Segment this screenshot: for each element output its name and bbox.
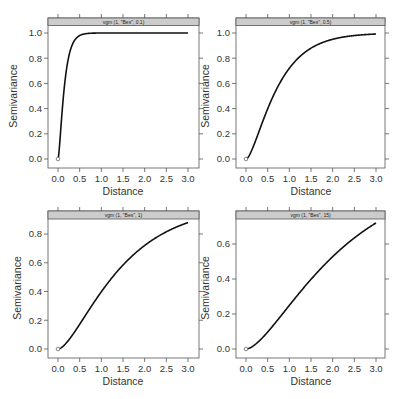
x-tick-label: 0.0: [51, 363, 64, 374]
y-tick-label: 1.0: [29, 27, 42, 38]
y-tick-label: 0.4: [217, 273, 230, 284]
x-tick-label: 0.5: [73, 363, 86, 374]
panel-4-xlabel: Distance: [291, 375, 332, 387]
x-tick-label: 2.0: [138, 363, 151, 374]
x-tick-label: 2.0: [138, 173, 151, 184]
x-tick-label: 2.0: [326, 363, 339, 374]
panel-2: vgm (1, "Bes", 0.5) 0.00.51.01.52.02.53.…: [199, 14, 389, 197]
x-tick-label: 0.0: [239, 363, 252, 374]
panel-1-ylabel: Semivariance: [7, 64, 19, 128]
panel-2-frame: [236, 18, 385, 168]
x-tick-label: 3.0: [369, 363, 382, 374]
x-tick-label: 2.5: [160, 363, 173, 374]
panel-2-origin-point: [244, 157, 248, 161]
y-tick-label: 0.4: [217, 103, 230, 114]
x-tick-label: 0.0: [239, 173, 252, 184]
y-tick-label: 0.6: [29, 78, 42, 89]
panel-3-frame: [48, 211, 199, 358]
panel-1-origin-point: [56, 157, 60, 161]
y-tick-label: 0.8: [29, 53, 42, 64]
y-tick-label: 0.0: [217, 153, 230, 164]
variogram-trellis-chart: vgm (1, "Bes", 0.1) 0.00.51.01.52.02.53.…: [0, 0, 399, 399]
panel-4-ylabel: Semivariance: [199, 256, 211, 320]
y-tick-label: 0.2: [29, 128, 42, 139]
x-tick-label: 0.5: [73, 173, 86, 184]
x-tick-label: 1.5: [304, 173, 317, 184]
panel-1-xlabel: Distance: [103, 185, 144, 197]
x-tick-label: 3.0: [181, 363, 194, 374]
panel-3-origin-point: [56, 347, 60, 351]
y-tick-label: 0.2: [217, 308, 230, 319]
panel-3-xlabel: Distance: [103, 375, 144, 387]
y-tick-label: 0.6: [217, 78, 230, 89]
panel-2-ylabel: Semivariance: [199, 64, 211, 128]
panel-1: vgm (1, "Bes", 0.1) 0.00.51.01.52.02.53.…: [7, 14, 203, 197]
y-tick-label: 0.8: [217, 53, 230, 64]
panel-3-ylabel: Semivariance: [11, 256, 23, 320]
x-tick-label: 2.5: [160, 173, 173, 184]
panel-2-xlabel: Distance: [291, 185, 332, 197]
panel-4-origin-point: [244, 347, 248, 351]
x-tick-label: 1.0: [95, 173, 108, 184]
x-tick-label: 0.5: [261, 363, 274, 374]
y-tick-label: 0.2: [29, 315, 42, 326]
x-tick-label: 2.5: [348, 173, 361, 184]
y-tick-label: 0.8: [29, 228, 42, 239]
y-tick-label: 0.4: [29, 103, 42, 114]
panel-4: vgm (1, "Bes", 15) 0.00.51.01.52.02.53.0…: [199, 207, 389, 387]
y-tick-label: 0.4: [29, 286, 42, 297]
x-tick-label: 1.5: [116, 173, 129, 184]
panel-4-frame: [236, 211, 385, 358]
panel-3-strip-label: vgm (1, "Bes", 1): [105, 212, 143, 218]
y-tick-label: 1.0: [217, 27, 230, 38]
x-tick-label: 1.5: [116, 363, 129, 374]
x-tick-label: 3.0: [181, 173, 194, 184]
panel-4-strip-label: vgm (1, "Bes", 15): [290, 212, 331, 218]
y-tick-label: 0.2: [217, 128, 230, 139]
x-tick-label: 3.0: [369, 173, 382, 184]
panel-1-strip-label: vgm (1, "Bes", 0.1): [103, 19, 145, 25]
x-tick-label: 1.0: [95, 363, 108, 374]
y-tick-label: 0.6: [217, 238, 230, 249]
y-tick-label: 0.0: [217, 343, 230, 354]
y-tick-label: 0.0: [29, 153, 42, 164]
panel-1-frame: [48, 18, 199, 168]
x-tick-label: 1.0: [283, 173, 296, 184]
x-tick-label: 2.0: [326, 173, 339, 184]
x-tick-label: 0.0: [51, 173, 64, 184]
panel-3: vgm (1, "Bes", 1) 0.00.51.01.52.02.53.00…: [11, 207, 203, 387]
y-tick-label: 0.6: [29, 257, 42, 268]
panel-2-strip-label: vgm (1, "Bes", 0.5): [290, 19, 332, 25]
x-tick-label: 1.0: [283, 363, 296, 374]
x-tick-label: 0.5: [261, 173, 274, 184]
x-tick-label: 1.5: [304, 363, 317, 374]
x-tick-label: 2.5: [348, 363, 361, 374]
y-tick-label: 0.0: [29, 343, 42, 354]
